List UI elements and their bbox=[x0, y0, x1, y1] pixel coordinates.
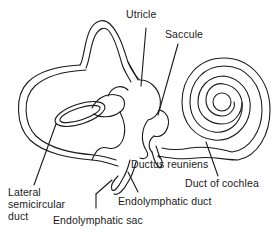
leader-endolymphatic-sac-2 bbox=[96, 180, 112, 194]
lateral-semicircular-duct bbox=[52, 96, 108, 131]
leader-endolymphatic-duct bbox=[128, 172, 138, 192]
label-lateral-semicircular-duct-line1: Lateral bbox=[8, 186, 41, 198]
leader-lateral-duct bbox=[34, 124, 56, 185]
label-saccule: Saccule bbox=[165, 28, 203, 40]
posterior-semicircular-duct bbox=[18, 65, 118, 166]
superior-semicircular-duct bbox=[80, 21, 138, 82]
inner-ear-diagram: Utricle Saccule Lateral semicircular duc… bbox=[0, 0, 277, 236]
label-lateral-semicircular-duct-line3: duct bbox=[8, 210, 28, 222]
label-ductus-reuniens: Ductus reuniens bbox=[131, 158, 208, 170]
saccule-body bbox=[149, 110, 168, 152]
leader-utricle bbox=[141, 28, 146, 86]
label-duct-of-cochlea: Duct of cochlea bbox=[185, 177, 259, 189]
label-utricle: Utricle bbox=[126, 8, 156, 20]
label-endolymphatic-sac: Endolymphatic sac bbox=[53, 214, 143, 226]
utricle-body bbox=[92, 62, 160, 160]
label-endolymphatic-duct: Endolymphatic duct bbox=[118, 195, 211, 207]
leader-saccule bbox=[158, 44, 178, 115]
cochlear-duct bbox=[158, 58, 270, 160]
label-lateral-semicircular-duct-line2: semicircular bbox=[8, 198, 65, 210]
